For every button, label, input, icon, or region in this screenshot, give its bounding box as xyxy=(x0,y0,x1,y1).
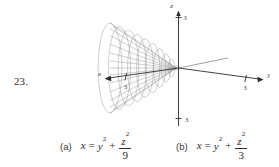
option-b-frac-numerator: z2 xyxy=(235,135,247,147)
z-axis-tick-label-negative: 3 xyxy=(185,116,188,123)
equation-options: (a) x = y2 + z2 9 (b) x = y2 + xyxy=(0,136,279,167)
option-a-lhs: x xyxy=(81,140,86,151)
y-axis-tick-label: 3 xyxy=(243,84,246,91)
x-axis-tick-label: 3 xyxy=(124,83,127,90)
y-axis-label: y xyxy=(267,71,271,79)
y-axis-line xyxy=(179,68,260,79)
option-b-frac-num-exp: 2 xyxy=(242,130,246,138)
option-a-frac-num-base: z xyxy=(121,135,125,147)
option-b-tag: (b) xyxy=(176,136,188,152)
option-b-equals: = xyxy=(205,140,211,151)
x-axis-arrowhead xyxy=(105,76,112,82)
option-b-term1-base: y xyxy=(214,140,219,152)
x-axis-tick xyxy=(125,73,127,81)
option-b-equation: x = y2 + z2 3 xyxy=(197,136,248,167)
option-b-term1-exp: 2 xyxy=(219,135,223,143)
option-b-frac-denominator: 3 xyxy=(236,149,246,162)
y-axis-arrowhead xyxy=(257,77,263,83)
paraboloid-mesh xyxy=(98,23,179,113)
z-axis-label: z xyxy=(169,2,173,10)
option-a-frac-num-exp: 2 xyxy=(126,130,130,138)
option-a-plus: + xyxy=(109,140,115,151)
option-a-equation: x = y2 + z2 9 xyxy=(81,136,132,167)
x-axis-line xyxy=(109,68,179,78)
option-a-frac-numerator: z2 xyxy=(119,135,131,147)
y-axis-tick xyxy=(245,75,247,82)
mesh-longitude xyxy=(110,53,177,68)
option-a-equals: = xyxy=(89,140,95,151)
z-axis-tick-label-positive: 3 xyxy=(184,14,187,21)
option-a-frac-denominator: 9 xyxy=(120,149,130,162)
option-b-plus: + xyxy=(225,140,231,151)
axes-group xyxy=(105,11,264,127)
option-b-fraction: z2 3 xyxy=(235,135,247,162)
option-b-frac-num-base: z xyxy=(237,135,241,147)
option-b-lhs: x xyxy=(197,140,202,151)
paraboloid-svg: z y x 3 3 3 3 xyxy=(95,0,270,135)
option-a: (a) x = y2 + z2 9 xyxy=(60,136,131,167)
option-a-term1-exp: 2 xyxy=(103,135,107,143)
mesh-longitude xyxy=(110,68,177,83)
option-b-term1: y2 xyxy=(214,140,222,152)
option-a-fraction: z2 9 xyxy=(119,135,131,162)
axis-guide-line xyxy=(179,58,229,68)
option-b: (b) x = y2 + z2 3 xyxy=(176,136,247,167)
figure-elliptic-paraboloid: z y x 3 3 3 3 xyxy=(95,0,270,135)
page-root: 23. xyxy=(0,0,279,167)
option-a-tag: (a) xyxy=(60,136,72,152)
option-a-term1-base: y xyxy=(98,140,103,152)
z-axis-arrowhead xyxy=(176,11,180,17)
x-axis-label: x xyxy=(97,70,102,78)
exercise-number: 23. xyxy=(14,75,28,87)
option-a-term1: y2 xyxy=(98,140,106,152)
